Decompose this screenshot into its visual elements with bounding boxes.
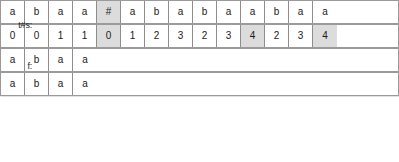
match-row-2-cell-3: a (73, 73, 97, 95)
match-row-2-cell-0: a (1, 73, 25, 95)
failure-row-cell-9: 3 (217, 25, 241, 47)
text-row-cell-6: b (145, 1, 169, 23)
failure-row-tape: 00110123234234 (0, 24, 399, 48)
failure-row-cell-6: 2 (145, 25, 169, 47)
failure-row-cell-5: 1 (121, 25, 145, 47)
text-row-cell-11: b (265, 1, 289, 23)
match-row-2-cell-1: b (25, 73, 49, 95)
failure-row-label: f: (4, 62, 32, 71)
text-row-cell-2: a (49, 1, 73, 23)
failure-row-cell-7: 3 (169, 25, 193, 47)
failure-row-cell-11: 2 (265, 25, 289, 47)
text-row-cell-5: a (121, 1, 145, 23)
match-row-2-cell-2: a (49, 73, 73, 95)
text-row-label: t#s: (4, 21, 32, 30)
failure-row-cell-3: 1 (73, 25, 97, 47)
text-row-tape: abaa#ababaabaa (0, 0, 399, 24)
match-row-1-cell-3: a (73, 49, 97, 71)
failure-row-cell-12: 3 (289, 25, 313, 47)
text-row-cell-4: # (97, 1, 121, 23)
text-row-cell-13: a (313, 1, 337, 23)
text-row-cell-9: a (217, 1, 241, 23)
text-row-cell-7: a (169, 1, 193, 23)
match-row-1-cell-2: a (49, 49, 73, 71)
failure-row-cell-2: 1 (49, 25, 73, 47)
failure-row-cell-10: 4 (241, 25, 265, 47)
failure-row-cell-4: 0 (97, 25, 121, 47)
text-row-cell-3: a (73, 1, 97, 23)
match-row-2-tape: abaa (0, 72, 399, 96)
text-row-cell-8: b (193, 1, 217, 23)
match-row-1-tape: abaa (0, 48, 399, 72)
text-row-cell-10: a (241, 1, 265, 23)
text-row-cell-12: a (289, 1, 313, 23)
failure-row-cell-8: 2 (193, 25, 217, 47)
failure-row-cell-13: 4 (313, 25, 337, 47)
